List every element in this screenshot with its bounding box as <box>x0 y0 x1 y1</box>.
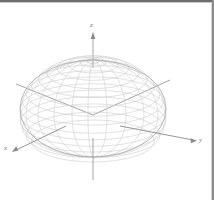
figure-canvas: z y x <box>0 0 214 200</box>
ellipsoid-wireframe-plot <box>0 0 214 200</box>
x-axis-label: x <box>4 145 7 152</box>
axis-lines-front <box>12 126 197 180</box>
z-axis-arrowhead <box>91 32 96 39</box>
z-axis-label: z <box>90 22 93 29</box>
y-axis-arrowhead <box>191 138 197 143</box>
y-axis-label: y <box>199 137 202 144</box>
x-axis-arrowhead <box>12 146 18 152</box>
